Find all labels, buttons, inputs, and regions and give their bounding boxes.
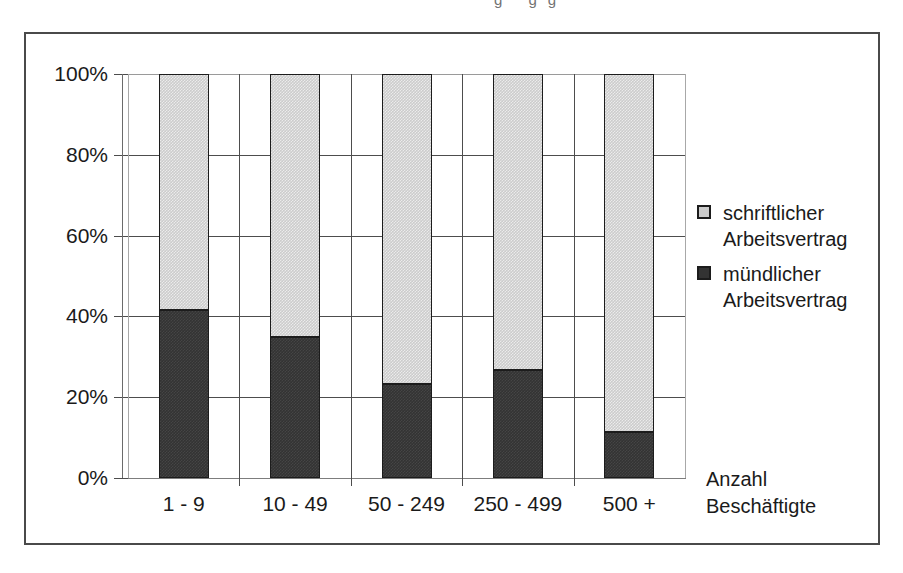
y-axis-label: 40% — [66, 304, 108, 328]
legend-label-line: Arbeitsvertrag — [723, 226, 848, 252]
plot-area-border — [128, 74, 129, 478]
y-axis-line — [122, 74, 123, 478]
y-axis-tick — [114, 74, 128, 75]
bar-segment-schriftlicher[interactable] — [270, 74, 320, 337]
y-axis-label: 60% — [66, 224, 108, 248]
bar-segment-muendlicher[interactable] — [604, 432, 654, 478]
legend-swatch-icon — [697, 205, 711, 219]
bar-segment-schriftlicher[interactable] — [493, 74, 543, 370]
cropped-title-artifact: g gg — [494, 0, 567, 8]
y-axis-label: 100% — [54, 62, 108, 86]
bar-stack[interactable] — [270, 74, 320, 478]
y-gridline — [128, 478, 686, 479]
bar-segment-muendlicher[interactable] — [493, 370, 543, 478]
y-axis-tick — [114, 155, 128, 156]
x-axis-title-line: Anzahl — [706, 468, 767, 490]
bar-stack[interactable] — [493, 74, 543, 478]
bar-stack[interactable] — [382, 74, 432, 478]
legend-item[interactable]: mündlicherArbeitsvertrag — [697, 261, 848, 313]
bar-stack[interactable] — [159, 74, 209, 478]
chart-legend: schriftlicherArbeitsvertragmündlicherArb… — [697, 200, 848, 322]
legend-label-line: schriftlicher — [723, 202, 824, 224]
y-axis-label: 0% — [78, 466, 108, 490]
category-separator — [239, 74, 240, 486]
legend-label-line: Arbeitsvertrag — [723, 287, 848, 313]
bar-segment-muendlicher[interactable] — [382, 384, 432, 478]
category-separator — [574, 74, 575, 486]
bar-segment-schriftlicher[interactable] — [382, 74, 432, 384]
y-axis-tick — [114, 236, 128, 237]
legend-label: mündlicherArbeitsvertrag — [723, 261, 848, 313]
category-separator — [351, 74, 352, 486]
x-axis-title: AnzahlBeschäftigte — [706, 466, 816, 520]
y-axis-tick — [114, 397, 128, 398]
y-axis-label: 80% — [66, 143, 108, 167]
legend-label: schriftlicherArbeitsvertrag — [723, 200, 848, 252]
y-axis-label: 20% — [66, 385, 108, 409]
category-separator — [462, 74, 463, 486]
bar-stack[interactable] — [604, 74, 654, 478]
bar-segment-muendlicher[interactable] — [159, 310, 209, 478]
x-axis-title-line: Beschäftigte — [706, 493, 816, 520]
plot-area-border — [685, 74, 686, 478]
y-axis-tick — [114, 478, 128, 479]
y-axis-tick — [114, 316, 128, 317]
bar-segment-muendlicher[interactable] — [270, 337, 320, 478]
legend-label-line: mündlicher — [723, 263, 821, 285]
bar-segment-schriftlicher[interactable] — [604, 74, 654, 432]
bar-segment-schriftlicher[interactable] — [159, 74, 209, 310]
legend-item[interactable]: schriftlicherArbeitsvertrag — [697, 200, 848, 252]
x-axis-category-label: 500 + — [554, 492, 704, 516]
legend-swatch-icon — [697, 266, 711, 280]
